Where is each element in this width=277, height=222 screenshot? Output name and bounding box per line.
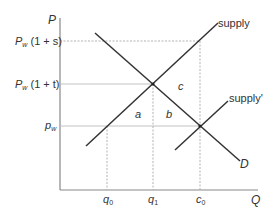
tick-pw: pw: [44, 119, 57, 132]
equilibrium-point-2: [198, 124, 201, 127]
y-axis-label: P: [48, 13, 56, 27]
tick-pw-1-plus-t: Pw (1 + t): [15, 78, 60, 91]
tick-pw-1-plus-s: Pw (1 + s): [15, 35, 62, 48]
tick-c0: c0: [196, 193, 206, 206]
area-c-label: c: [178, 80, 184, 92]
area-b-label: b: [166, 108, 172, 120]
area-a-label: a: [135, 108, 141, 120]
demand-curve: [95, 33, 240, 161]
demand-label: D: [240, 157, 249, 171]
supply-label: supply: [218, 17, 250, 29]
x-axis-label: Q: [251, 193, 260, 207]
tick-q0: q0: [103, 193, 113, 206]
supply-prime-label: supply': [229, 92, 263, 104]
equilibrium-point-1: [151, 82, 154, 85]
tick-q1: q1: [148, 193, 158, 206]
supply-demand-chart: P Q Pw (1 + s) Pw (1 + t) pw q0 q1 c0 su…: [0, 0, 277, 222]
